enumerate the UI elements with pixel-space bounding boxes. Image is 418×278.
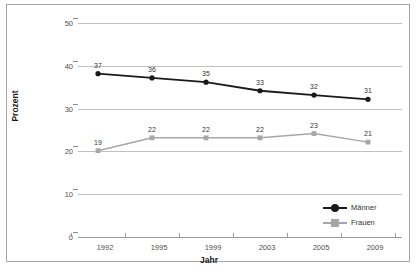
x-tick-6 bbox=[395, 233, 396, 237]
x-tick-1 bbox=[125, 233, 126, 237]
legend-swatch-männer bbox=[323, 203, 347, 212]
data-point-männer-2005 bbox=[311, 92, 316, 97]
y-tick-40 bbox=[73, 61, 78, 62]
data-label-frauen-1995: 22 bbox=[148, 126, 156, 133]
y-tick-0 bbox=[73, 232, 78, 233]
data-label-frauen-2003: 22 bbox=[256, 126, 264, 133]
data-point-frauen-2003 bbox=[258, 135, 263, 140]
figure-caption bbox=[8, 266, 410, 278]
data-point-frauen-2005 bbox=[312, 131, 317, 136]
legend-item-frauen[interactable]: Frauen bbox=[323, 216, 375, 229]
x-tick-5 bbox=[341, 233, 342, 237]
data-point-frauen-1995 bbox=[150, 135, 155, 140]
data-label-männer-1995: 36 bbox=[148, 66, 156, 73]
series-line-männer bbox=[98, 74, 368, 100]
y-tick-20 bbox=[73, 146, 78, 147]
data-label-frauen-1999: 22 bbox=[202, 126, 210, 133]
data-point-männer-1999 bbox=[203, 80, 208, 85]
data-point-frauen-1992 bbox=[96, 148, 101, 153]
series-layer bbox=[7, 5, 418, 278]
data-label-männer-2005: 32 bbox=[310, 83, 318, 90]
x-tick-3 bbox=[233, 233, 234, 237]
data-point-männer-1992 bbox=[95, 71, 100, 76]
data-label-frauen-2009: 21 bbox=[364, 130, 372, 137]
data-label-frauen-1992: 19 bbox=[94, 139, 102, 146]
data-point-frauen-1999 bbox=[204, 135, 209, 140]
y-tick-50 bbox=[73, 18, 78, 19]
x-tick-0 bbox=[71, 233, 72, 237]
series-line-frauen bbox=[98, 134, 368, 151]
data-point-männer-1995 bbox=[149, 75, 154, 80]
x-tick-2 bbox=[179, 233, 180, 237]
legend-label-männer: Männer bbox=[351, 203, 376, 212]
y-tick-10 bbox=[73, 189, 78, 190]
legend-label-frauen: Frauen bbox=[351, 218, 375, 227]
data-label-männer-1999: 35 bbox=[202, 70, 210, 77]
y-tick-30 bbox=[73, 104, 78, 105]
legend-swatch-frauen bbox=[323, 218, 347, 227]
chart-frame: Prozent 01020304050 19921995199920032005… bbox=[6, 4, 410, 262]
data-point-frauen-2009 bbox=[366, 140, 371, 145]
data-label-männer-1992: 37 bbox=[94, 62, 102, 69]
figure: Prozent 01020304050 19921995199920032005… bbox=[0, 0, 418, 278]
data-label-männer-2009: 31 bbox=[364, 87, 372, 94]
data-point-männer-2003 bbox=[257, 88, 262, 93]
chart-legend: MännerFrauen bbox=[323, 201, 401, 231]
legend-item-männer[interactable]: Männer bbox=[323, 201, 376, 214]
data-label-männer-2003: 33 bbox=[256, 79, 264, 86]
data-point-männer-2009 bbox=[365, 97, 370, 102]
x-tick-4 bbox=[287, 233, 288, 237]
data-label-frauen-2005: 23 bbox=[310, 122, 318, 129]
